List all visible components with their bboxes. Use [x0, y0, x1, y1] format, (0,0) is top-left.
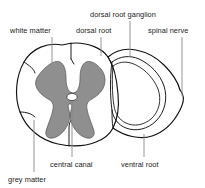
dorsolateral-sulcus-left	[24, 62, 35, 73]
peripheral-nerve-structures	[108, 49, 183, 137]
dorsal-median-sulcus	[71, 43, 74, 64]
label-white-matter: white matter	[9, 26, 51, 35]
label-central-canal: central canal	[50, 160, 93, 169]
grey-matter-region	[36, 61, 105, 138]
label-dorsal-root: dorsal root	[76, 26, 111, 35]
label-ventral-root: ventral root	[121, 160, 159, 169]
label-dorsal-root-ganglion: dorsal root ganglion	[90, 10, 156, 19]
diagram-canvas: white matter dorsal root dorsal root gan…	[0, 0, 205, 188]
dorsal-root-entry	[108, 57, 112, 66]
central-canal-lumen	[67, 93, 77, 100]
dorsal-root-ganglion-inner	[112, 62, 159, 125]
label-group: white matter dorsal root dorsal root gan…	[8, 10, 188, 184]
spinal-nerve-outer-outline	[113, 90, 183, 138]
label-spinal-nerve: spinal nerve	[148, 26, 188, 35]
dorsal-root-ganglion-body	[111, 57, 166, 130]
label-grey-matter: grey matter	[8, 175, 46, 184]
spinal-cord-diagram: white matter dorsal root dorsal root gan…	[0, 0, 205, 188]
